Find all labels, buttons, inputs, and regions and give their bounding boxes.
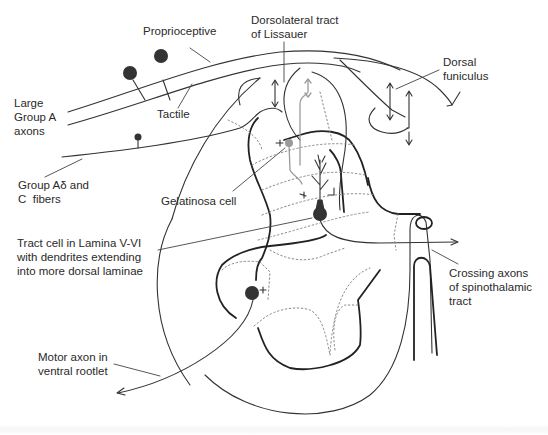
label-dorsolateral-tract: Dorsolateral tract of Lissauer [251,13,339,41]
cord-outline-left [157,219,190,385]
lamina-boundary-2 [252,144,355,165]
label-gelatinosa-cell: Gelatinosa cell [161,194,236,208]
gelatinosa-soma [285,139,293,147]
gelatinosa-synapse [276,140,283,146]
crossing-axons-leader [432,250,458,264]
tactile-leader [178,84,192,108]
label-motor-axon: Motor axon in ventral rootlet [38,350,108,378]
label-crossing-axons: Crossing axons of spinothalamic tract [449,266,532,308]
inner-funiculus-curve [284,68,300,140]
lateral-horn-edge [368,178,420,214]
funiculus-arrow-1 [387,83,393,120]
lamina-boundary-11 [334,305,360,350]
dorsal-horn-outline [248,118,270,280]
synapse-terminal-2 [328,188,334,195]
large-axon-soma [123,66,137,80]
proprioceptive-leader [190,48,210,62]
tract-cell-soma [313,207,327,221]
ventral-horn-left [216,235,326,318]
label-proprioceptive: Proprioceptive [143,24,217,38]
lamina-boundary-3 [262,172,365,190]
ventral-horn-lower [258,270,380,369]
scan-artifact [0,424,548,435]
group-adelta-leader [45,159,82,177]
synapse-terminal-1 [300,192,306,198]
lamina-boundary-8 [394,214,398,250]
label-group-adelta-c-fibers: Group Aδ and C fibers [18,178,89,206]
motor-neuron-soma [245,286,259,300]
dorsal-funiculus-curve [369,108,408,133]
cord-outline-bottom [205,215,432,414]
motor-neuron-synapse [260,287,266,293]
lamina-boundary-12 [330,268,370,355]
funiculus-arrow-3 [406,132,412,145]
crossing-axon [320,220,457,243]
lissauer-arrow [272,80,278,107]
small-fiber-soma [135,134,142,141]
motor-axon-leader [114,364,160,376]
lamina-boundary-7 [320,92,332,140]
label-tactile: Tactile [157,107,190,121]
dorsal-horn-right-edge [330,150,344,212]
tract-cell-leader [158,218,312,250]
large-axon-lower [68,63,360,125]
funiculus-arrow-2 [406,91,412,128]
label-dorsal-funiculus: Dorsal funiculus [443,55,488,83]
lamina-boundary-1 [228,120,262,150]
lateral-funiculus-arc [312,72,346,210]
proprioceptive-stalk [163,80,170,100]
dorsal-funiculus-leader [396,70,439,89]
dorsal-septum [447,92,460,106]
dorsal-funiculus-arc [334,58,452,105]
lamina-boundary-6 [270,248,345,260]
gelatinosa-axon [289,80,308,184]
label-large-group-a-axons: Large Group A axons [14,96,56,138]
proprioceptive-soma [154,49,168,63]
label-tract-cell: Tract cell in Lamina V-VI with dendrites… [17,236,143,278]
dorsal-column-boundary [239,78,260,105]
anterior-median-fissure [414,258,437,360]
